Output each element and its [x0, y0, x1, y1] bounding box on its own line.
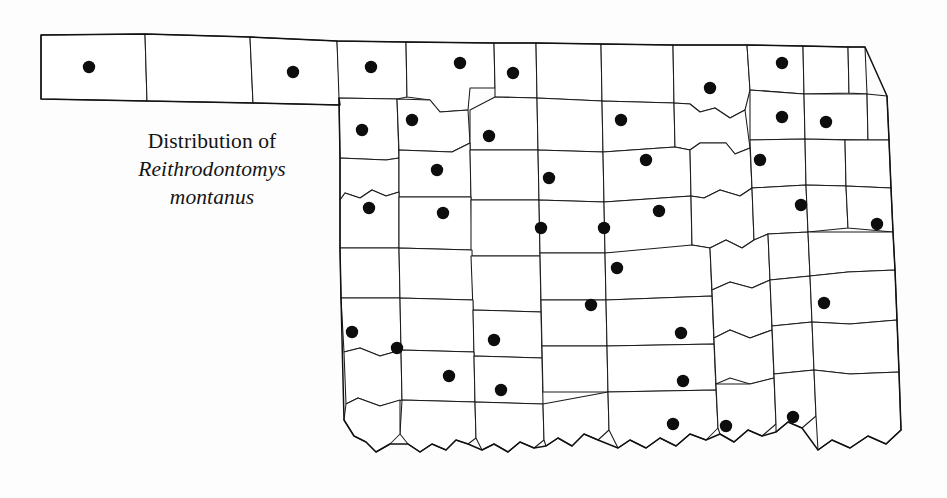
county-oklahoma: [540, 253, 606, 300]
caption-line-distribution: Distribution of: [96, 128, 328, 156]
record-dot: [431, 164, 443, 176]
county-kiowa: [400, 298, 474, 352]
record-dot: [611, 262, 623, 274]
record-dot: [365, 61, 377, 73]
record-dot: [356, 124, 368, 136]
county-muskogee: [768, 232, 810, 280]
map-caption: Distribution of Reithrodontomys montanus: [96, 128, 328, 212]
county-mcclain: [542, 346, 608, 392]
county-noble: [602, 101, 675, 152]
record-dot: [363, 202, 375, 214]
county-washita: [399, 248, 473, 300]
record-dot: [704, 82, 716, 94]
record-dot: [483, 130, 495, 142]
county-haskell: [770, 276, 812, 326]
county-latimer: [772, 322, 814, 374]
county-nowata: [803, 46, 849, 94]
county-blaine: [470, 150, 539, 200]
county-okfuskee: [691, 188, 754, 248]
county-cleveland: [541, 300, 607, 346]
county-pontotoc: [607, 344, 716, 392]
county-custer: [399, 197, 472, 250]
county-adair: [846, 186, 893, 232]
record-dot: [615, 114, 627, 126]
county-major: [470, 97, 538, 150]
record-dot: [585, 299, 597, 311]
county-texas: [145, 34, 253, 103]
record-dot: [507, 67, 519, 79]
county-lincoln: [604, 196, 692, 253]
county-beckham: [340, 248, 400, 298]
record-dot: [754, 154, 766, 166]
record-dot: [437, 207, 449, 219]
record-dot: [391, 342, 403, 354]
record-dot: [598, 222, 610, 234]
record-dot: [667, 418, 679, 430]
county-leflore: [812, 320, 899, 374]
county-kay: [601, 44, 674, 103]
record-dot: [535, 222, 547, 234]
county-atoka: [714, 330, 774, 384]
caption-line-genus: Reithrodontomys: [96, 156, 328, 184]
county-ellis: [339, 98, 399, 160]
county-garfield: [537, 98, 603, 152]
county-mayes: [805, 139, 846, 186]
figure-container: Distribution of Reithrodontomys montanus: [0, 0, 947, 498]
record-dot: [871, 218, 883, 230]
record-dot: [346, 326, 358, 338]
record-dot: [406, 114, 418, 126]
county-stephens: [474, 356, 543, 404]
county-sequoyah: [808, 232, 895, 276]
oklahoma-county-map: [0, 0, 947, 498]
county-cherokee: [806, 185, 848, 232]
county-cotton: [475, 402, 544, 452]
record-dot: [776, 111, 788, 123]
county-grady: [473, 310, 542, 358]
county-craig: [804, 94, 868, 140]
record-dot: [820, 116, 832, 128]
county-craig-n: [848, 47, 867, 94]
record-dot: [795, 199, 807, 211]
record-dot: [776, 57, 788, 69]
county-caddo: [471, 256, 541, 312]
county-logan: [539, 200, 605, 253]
county-grant: [536, 43, 602, 101]
county-jackson: [344, 348, 402, 406]
record-dot: [495, 384, 507, 396]
record-dot: [675, 327, 687, 339]
record-dot: [488, 334, 500, 346]
record-dot: [677, 375, 689, 387]
county-tillman: [400, 400, 476, 452]
county-seminole: [606, 296, 714, 346]
county-jefferson: [543, 392, 609, 446]
record-dot: [443, 370, 455, 382]
record-dot: [787, 411, 799, 423]
record-dot: [653, 205, 665, 217]
record-dot: [454, 57, 466, 69]
county-ottawa: [867, 94, 889, 140]
record-dot: [287, 66, 299, 78]
county-roger-mills: [340, 190, 399, 248]
county-washington: [747, 45, 804, 94]
county-mccurtain: [814, 370, 901, 450]
record-dot: [83, 61, 95, 73]
caption-line-species: montanus: [96, 184, 328, 212]
county-delaware: [845, 140, 891, 188]
county-comanche: [401, 350, 475, 402]
county-pittsburg: [712, 280, 772, 338]
county-wagoner: [752, 185, 808, 240]
county-creek: [690, 143, 752, 198]
record-dot: [720, 420, 732, 432]
record-dot: [818, 297, 830, 309]
county-canadian: [471, 200, 540, 256]
record-dot: [543, 172, 555, 184]
record-dot: [640, 154, 652, 166]
